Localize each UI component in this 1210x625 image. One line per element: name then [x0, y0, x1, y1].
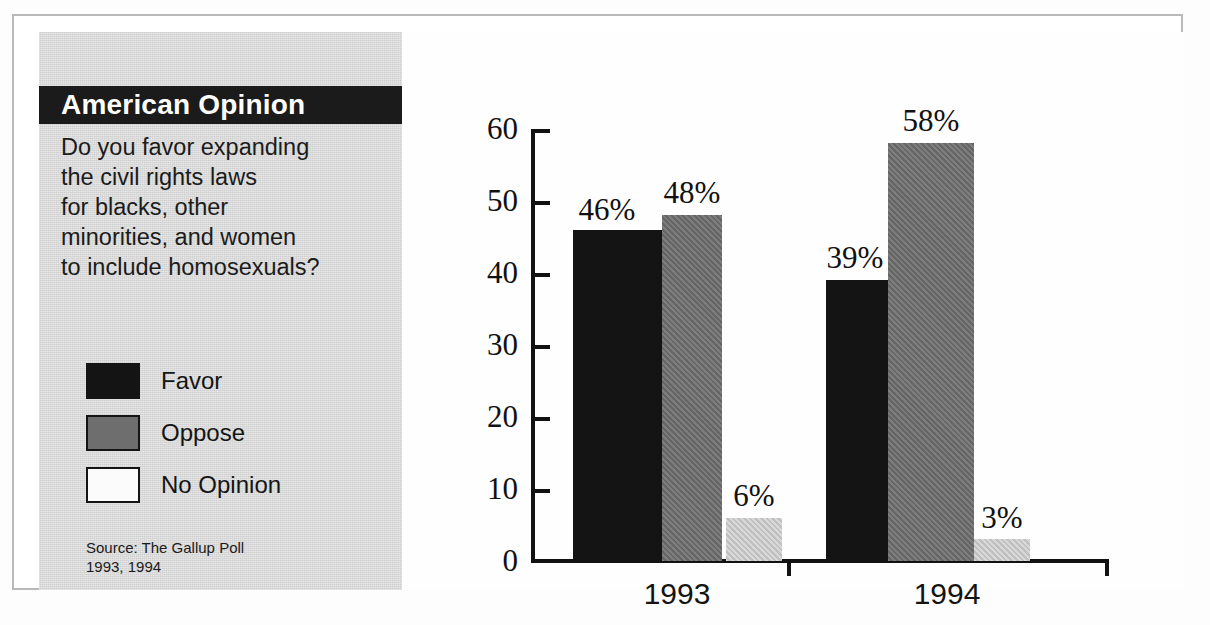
x-axis-label-1993: 1993	[602, 577, 752, 611]
legend-label-no-opinion: No Opinion	[161, 471, 281, 499]
y-tick-20	[535, 417, 550, 421]
y-tick-40	[535, 273, 550, 277]
bar-1994-oppose	[888, 143, 974, 561]
info-panel: American Opinion Do you favor expanding …	[39, 32, 402, 590]
source-note: Source: The Gallup Poll 1993, 1994	[86, 538, 244, 576]
bar-1994-no-opinion	[974, 539, 1030, 561]
y-tick-label-50: 50	[458, 183, 518, 219]
x-tick-group-separator	[787, 563, 791, 576]
y-tick-label-20: 20	[458, 399, 518, 435]
y-tick-50	[535, 201, 550, 205]
bar-1993-no-opinion	[726, 518, 782, 561]
figure-frame: American Opinion Do you favor expanding …	[12, 14, 1183, 590]
chart-panel: 60 50 40 30 20 10 0 46% 48% 6%	[402, 32, 1185, 590]
x-tick-right-end	[1105, 563, 1109, 576]
y-tick-label-30: 30	[458, 327, 518, 363]
legend-swatch-favor	[86, 363, 140, 399]
bar-1993-favor	[573, 230, 662, 561]
bar-value-1994-no-opinion: 3%	[947, 500, 1057, 536]
legend-item-no-opinion: No Opinion	[86, 466, 386, 504]
bar-1994-favor	[826, 280, 888, 561]
x-axis-label-1994: 1994	[872, 577, 1022, 611]
y-tick-30	[535, 345, 550, 349]
y-tick-label-0: 0	[458, 543, 518, 579]
y-tick-label-60: 60	[458, 111, 518, 147]
title-bar: American Opinion	[39, 86, 402, 124]
page-title: American Opinion	[39, 89, 305, 121]
y-tick-10	[535, 489, 550, 493]
legend-label-favor: Favor	[161, 367, 222, 395]
poll-question: Do you favor expanding the civil rights …	[61, 132, 401, 282]
legend-item-oppose: Oppose	[86, 414, 386, 452]
plot-area: 60 50 40 30 20 10 0 46% 48% 6%	[402, 32, 1185, 590]
bar-value-1993-oppose: 48%	[637, 175, 747, 211]
legend-item-favor: Favor	[86, 362, 386, 400]
y-tick-60	[535, 129, 550, 133]
bar-value-1993-no-opinion: 6%	[699, 478, 809, 514]
legend-swatch-oppose	[86, 415, 140, 451]
legend-swatch-no-opinion	[86, 467, 140, 503]
legend: Favor Oppose No Opinion	[86, 362, 386, 518]
y-tick-label-40: 40	[458, 255, 518, 291]
y-tick-label-10: 10	[458, 471, 518, 507]
bar-value-1994-oppose: 58%	[876, 103, 986, 139]
figure-root: American Opinion Do you favor expanding …	[0, 0, 1210, 625]
legend-label-oppose: Oppose	[161, 419, 245, 447]
